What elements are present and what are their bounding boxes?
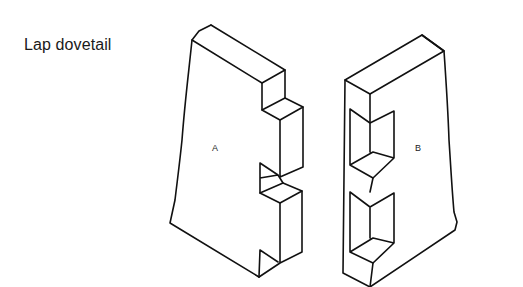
- lap-dovetail-diagram: A B: [0, 0, 523, 287]
- piece-b-label: B: [415, 143, 421, 153]
- piece-a-label: A: [212, 143, 218, 153]
- piece-b-drawing: B: [343, 35, 457, 287]
- piece-a-drawing: A: [170, 25, 303, 277]
